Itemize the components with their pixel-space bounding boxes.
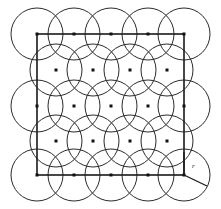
circle-center-dot bbox=[73, 33, 76, 36]
circle-center-dot bbox=[129, 69, 132, 72]
circle-center-dot bbox=[73, 174, 76, 177]
circle-center-dot bbox=[110, 105, 113, 108]
diagram-canvas: r bbox=[0, 0, 221, 209]
circle-center-dot bbox=[147, 33, 150, 36]
circle-center-dot bbox=[36, 33, 39, 36]
circle-center-dot bbox=[147, 105, 150, 108]
circle-center-dot bbox=[110, 174, 113, 177]
circle-center-dot bbox=[110, 33, 113, 36]
circle-covering-diagram: r bbox=[0, 0, 221, 209]
circle-center-dot bbox=[183, 105, 186, 108]
circle-center-dot bbox=[36, 174, 39, 177]
circle-center-dot bbox=[73, 105, 76, 108]
circle-center-dot bbox=[147, 174, 150, 177]
radius-label: r bbox=[192, 162, 195, 170]
circle-center-dot bbox=[166, 69, 169, 72]
circle-center-dot bbox=[129, 140, 132, 143]
circle-center-dot bbox=[183, 33, 186, 36]
circle-center-dot bbox=[55, 140, 58, 143]
circle-center-dot bbox=[92, 140, 95, 143]
radius-arm-line bbox=[184, 175, 207, 186]
circle-center-dot bbox=[166, 140, 169, 143]
circle-center-dot bbox=[55, 69, 58, 72]
circle-center-dot bbox=[36, 105, 39, 108]
circle-center-dot bbox=[92, 69, 95, 72]
